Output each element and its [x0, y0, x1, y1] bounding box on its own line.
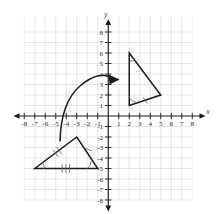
- x-tick-label: 8: [191, 120, 195, 128]
- x-axis-arrow-left: [14, 113, 20, 119]
- preimage-triangle-angle-mark-left: [42, 162, 44, 168]
- x-tick-label: -3: [74, 120, 80, 128]
- y-tick-label: 2: [100, 92, 104, 100]
- x-tick-label: 1: [117, 120, 121, 128]
- x-axis-label: x: [205, 107, 210, 116]
- x-tick-label: -5: [53, 120, 59, 128]
- y-tick-label: -6: [97, 176, 103, 184]
- y-tick-label: -3: [97, 144, 103, 152]
- y-tick-label: -8: [97, 197, 103, 205]
- y-axis-arrow-up: [105, 19, 111, 25]
- preimage-triangle-angle-mark-right: [88, 161, 91, 168]
- y-axis-arrow-down: [105, 206, 111, 212]
- y-tick-label: 1: [100, 102, 104, 110]
- transformation-arrow-head: [109, 75, 120, 85]
- coordinate-plane-figure: -8 -7 -6 -5 -4 -3 -2 -1 1 2 3 4 5 6 7 8 …: [0, 0, 221, 214]
- x-tick-label: 2: [128, 120, 132, 128]
- transformation-arrow-curve: [60, 75, 113, 141]
- x-tick-label: -8: [21, 120, 27, 128]
- y-tick-label: 7: [100, 39, 104, 47]
- y-tick-label: 5: [100, 60, 104, 68]
- x-tick-label: -7: [32, 120, 38, 128]
- y-tick-label: -2: [97, 134, 103, 142]
- image-triangle: [129, 53, 161, 106]
- x-tick-label: -4: [63, 120, 69, 128]
- y-tick-label: 3: [100, 81, 104, 89]
- x-tick-label: 7: [180, 120, 184, 128]
- x-tick-label: 3: [138, 120, 142, 128]
- y-tick-label: -4: [97, 155, 103, 163]
- y-tick-label: -1: [97, 123, 103, 131]
- coordinate-graph: -8 -7 -6 -5 -4 -3 -2 -1 1 2 3 4 5 6 7 8 …: [0, 0, 221, 214]
- x-tick-label: -6: [42, 120, 48, 128]
- y-tick-label: 4: [100, 71, 104, 79]
- y-tick-label: 6: [100, 50, 104, 58]
- y-tick-label: -7: [97, 186, 103, 194]
- image-triangle-outline: [129, 53, 161, 106]
- x-tick-label: 5: [159, 120, 163, 128]
- y-tick-label: 8: [100, 29, 104, 37]
- x-tick-label: 4: [149, 120, 153, 128]
- x-axis-arrow-right: [200, 113, 206, 119]
- axes: [14, 19, 206, 212]
- x-tick-label: 6: [170, 120, 174, 128]
- image-triangle-angle-mark-bottom: [129, 96, 136, 102]
- x-tick-label: -2: [84, 120, 90, 128]
- y-axis-label: y: [103, 10, 108, 19]
